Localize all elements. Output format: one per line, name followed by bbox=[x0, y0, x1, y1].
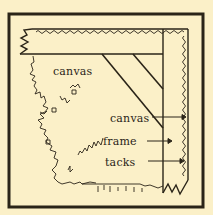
label-arrows bbox=[147, 115, 186, 164]
tacks-top bbox=[36, 31, 184, 34]
outer-border bbox=[9, 14, 203, 207]
tacks-right bbox=[183, 36, 186, 176]
diagram-drawing bbox=[0, 0, 213, 215]
label-frame-pointer: frame bbox=[103, 136, 137, 147]
label-tacks-pointer: tacks bbox=[105, 157, 135, 168]
label-canvas-area: canvas bbox=[53, 66, 92, 77]
right-frame-bar bbox=[163, 29, 188, 194]
label-canvas-pointer: canvas bbox=[110, 113, 149, 124]
canvas-frame-diagram: canvas canvas frame tacks bbox=[0, 0, 213, 215]
